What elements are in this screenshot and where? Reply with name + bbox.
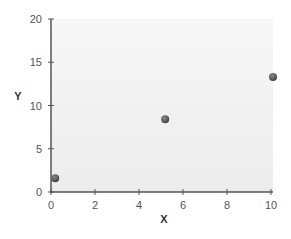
y-tick-label: 10: [30, 100, 42, 112]
y-tick-label: 5: [36, 143, 42, 155]
x-tick-label: 2: [92, 199, 98, 211]
data-point: [161, 115, 169, 123]
y-tick-label: 15: [30, 56, 42, 68]
x-tick-label: 4: [136, 199, 142, 211]
data-point: [269, 73, 277, 81]
y-axis-title: Y: [14, 90, 22, 102]
plot-area: [51, 19, 273, 192]
data-point: [51, 174, 59, 182]
y-tick-label: 0: [36, 186, 42, 198]
x-tick-label: 0: [48, 199, 54, 211]
x-tick-label: 10: [265, 199, 277, 211]
y-tick-label: 20: [30, 13, 42, 25]
scatter-chart: 051015200246810 X Y: [0, 0, 291, 239]
x-tick-label: 6: [180, 199, 186, 211]
x-axis-title: X: [160, 213, 168, 225]
x-tick-label: 8: [224, 199, 230, 211]
